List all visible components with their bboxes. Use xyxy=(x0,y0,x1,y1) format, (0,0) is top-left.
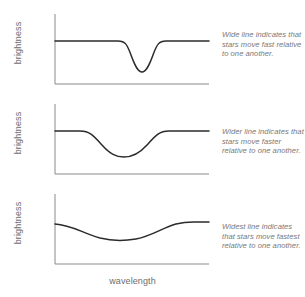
panel-wide-line: brightness Wide line indicates that star… xyxy=(0,8,305,98)
brightness-curve-wide xyxy=(55,41,209,72)
brightness-curve-widest xyxy=(55,222,209,240)
panel-wider-line: brightness Wider line indicates that sta… xyxy=(0,98,305,188)
caption-wide-line: Wide line indicates that stars move fast… xyxy=(222,30,305,59)
spectral-line-broadening-figure: brightness Wide line indicates that star… xyxy=(0,0,305,297)
x-axis-label-wavelength: wavelength xyxy=(55,276,210,286)
caption-widest-line: Widest line indicates that stars move fa… xyxy=(222,222,305,251)
panel-widest-line: brightness Widest line indicates that st… xyxy=(0,188,305,278)
brightness-curve-wider xyxy=(55,131,209,157)
caption-wider-line: Wider line indicates that stars move fas… xyxy=(222,127,305,156)
